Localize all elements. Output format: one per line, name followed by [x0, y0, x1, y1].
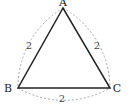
- side-label-ac: 2: [94, 40, 100, 51]
- vertex-label-b: B: [4, 82, 12, 95]
- side-label-ab: 2: [26, 40, 32, 51]
- diagram-canvas: A B C 2 2 2: [0, 0, 129, 110]
- vertex-label-c: C: [113, 82, 121, 95]
- vertex-label-a: A: [58, 0, 68, 9]
- side-label-bc: 2: [59, 93, 65, 104]
